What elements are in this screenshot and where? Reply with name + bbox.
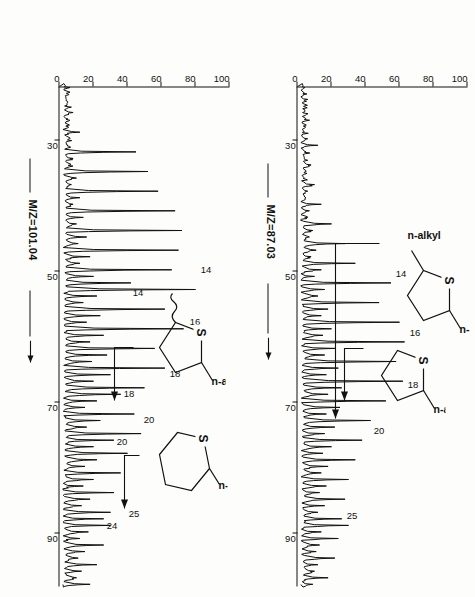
chromatogram-panel-mz101: 30 50 70 90 100 80 60 40 20 0 M/Z=101.04 [0, 0, 237, 597]
structure-leader-arrows-bottom [0, 0, 237, 597]
structure-leader-arrows-top [238, 0, 475, 597]
figure-root: 30 50 70 90 100 80 60 40 20 0 M/Z=87.03 [0, 0, 475, 597]
rotated-figure-canvas: 30 50 70 90 100 80 60 40 20 0 M/Z=87.03 [0, 0, 475, 597]
chromatogram-panel-mz87: 30 50 70 90 100 80 60 40 20 0 M/Z=87.03 [238, 0, 475, 597]
